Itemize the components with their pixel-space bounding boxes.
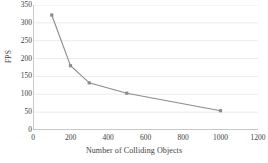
x-tick-label: 200 (54, 133, 88, 142)
x-tick-label: 1200 (241, 133, 268, 142)
plot-svg (33, 5, 258, 130)
y-tick-label: 250 (2, 37, 32, 45)
y-tick-label: 300 (2, 19, 32, 27)
x-tick-label: 1000 (204, 133, 238, 142)
axis-lines (33, 5, 258, 130)
x-tick-label: 600 (129, 133, 163, 142)
fps-vs-colliding-objects-chart: FPS 050100150200250300350 02004006008001… (0, 0, 268, 163)
y-tick-label: 150 (2, 72, 32, 80)
gridlines (33, 5, 258, 112)
y-tick-label: 200 (2, 55, 32, 63)
y-tick-label: 50 (2, 108, 32, 116)
plot-area (33, 5, 258, 130)
x-axis-tick-labels: 020040060080010001200 (0, 133, 268, 145)
series-line-fps (52, 15, 221, 111)
series-markers-fps (50, 13, 222, 112)
x-tick-label: 0 (16, 133, 50, 142)
x-tick-label: 400 (91, 133, 125, 142)
x-axis-title: Number of Colliding Objects (0, 146, 268, 155)
x-tick-label: 800 (166, 133, 200, 142)
y-tick-label: 350 (2, 1, 32, 9)
y-tick-label: 100 (2, 90, 32, 98)
